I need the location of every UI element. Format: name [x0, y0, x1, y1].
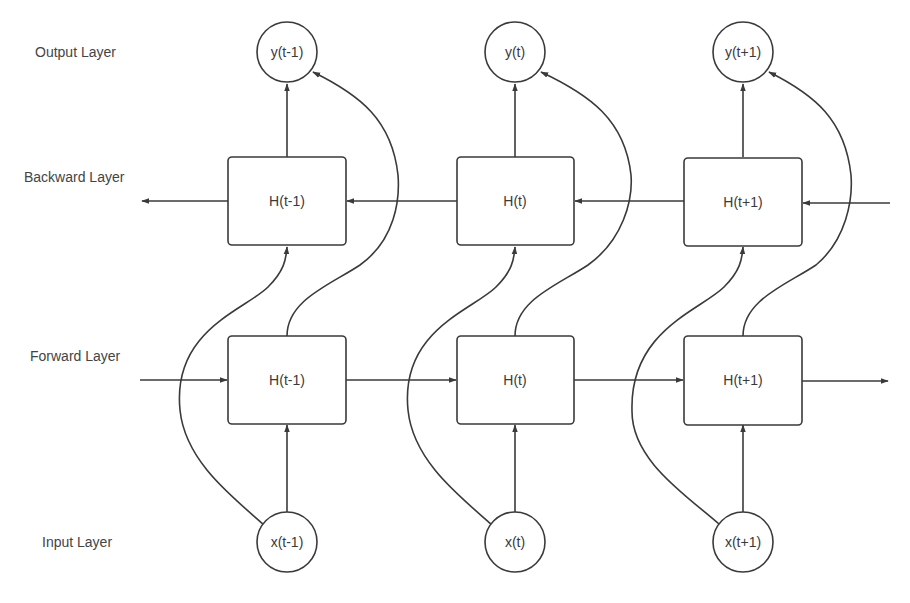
label-forward-layer: Forward Layer	[30, 348, 121, 364]
forward-node-label: H(t-1)	[269, 372, 305, 388]
input-node-label: x(t)	[505, 534, 525, 550]
forward-node-label: H(t)	[503, 372, 526, 388]
label-input-layer: Input Layer	[42, 534, 112, 550]
label-output-layer: Output Layer	[35, 44, 116, 60]
backward-node-label: H(t+1)	[723, 194, 762, 210]
column-t: y(t) H(t) H(t) x(t)	[407, 22, 631, 572]
input-node-label: x(t-1)	[271, 534, 304, 550]
label-backward-layer: Backward Layer	[24, 169, 125, 185]
backward-node-label: H(t)	[503, 193, 526, 209]
output-node-label: y(t)	[505, 44, 525, 60]
output-node-label: y(t-1)	[271, 44, 304, 60]
forward-node-label: H(t+1)	[723, 372, 762, 388]
input-node-label: x(t+1)	[725, 534, 761, 550]
column-t-minus-1: y(t-1) H(t-1) H(t-1) x(t-1)	[179, 22, 398, 572]
output-node-label: y(t+1)	[725, 44, 761, 60]
column-t-plus-1: y(t+1) H(t+1) H(t+1) x(t+1)	[632, 22, 851, 572]
backward-node-label: H(t-1)	[269, 193, 305, 209]
bidirectional-rnn-diagram: Output Layer Backward Layer Forward Laye…	[0, 0, 910, 603]
